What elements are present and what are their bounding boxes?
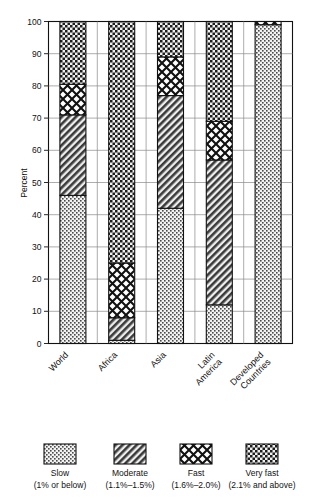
bar-segment-very-fast[interactable] [206,22,232,122]
bar-segment-slow[interactable] [255,25,281,344]
bar-segment-moderate[interactable] [206,160,232,305]
y-tick-label-50: 50 [32,178,42,188]
bar-segment-fast[interactable] [206,121,232,160]
y-tick-label-60: 60 [32,145,42,155]
bar-segment-fast[interactable] [109,263,135,318]
category-label-line1: World [47,350,71,374]
bar-latin-america[interactable] [206,22,232,344]
legend-swatch-fast [180,444,212,464]
category-label-line1: Asia [148,350,167,369]
category-label-latin: LatinAmerica [186,350,223,387]
bar-segment-fast[interactable] [158,57,184,96]
legend-item-moderate[interactable]: Moderate(1.1%–1.5%) [105,444,154,490]
bar-developed-countries[interactable] [255,22,281,344]
legend-sublabel: (1.6%–2.0%) [171,480,220,490]
legend-swatch-slow [44,444,76,464]
bar-world[interactable] [60,22,86,344]
category-label-developed: DevelopedCountries [228,349,273,394]
legend-item-fast[interactable]: Fast(1.6%–2.0%) [171,444,220,490]
y-tick-label-20: 20 [32,274,42,284]
y-tick-label-30: 30 [32,242,42,252]
y-tick-label-40: 40 [32,210,42,220]
category-labels: WorldAfricaAsiaLatinAmericaDevelopedCoun… [47,349,273,394]
legend-item-slow[interactable]: Slow(1% or below) [34,444,87,490]
bar-africa[interactable] [109,22,135,344]
bar-segment-slow[interactable] [60,195,86,343]
chart-canvas: 0102030405060708090100 Percent WorldAfri… [0,0,318,499]
legend-label: Very fast [245,468,279,478]
category-label-africa: Africa [96,350,119,373]
bar-segment-moderate[interactable] [109,318,135,341]
bar-segment-moderate[interactable] [60,115,86,196]
category-label-asia: Asia [148,350,167,369]
bar-segment-fast[interactable] [255,22,281,25]
bar-asia[interactable] [158,22,184,344]
bar-segment-slow[interactable] [158,208,184,343]
legend-swatch-moderate [114,444,146,464]
chart-legend: Slow(1% or below)Moderate(1.1%–1.5%)Fast… [34,444,296,490]
legend-label: Fast [188,468,205,478]
bar-segment-very-fast[interactable] [158,22,184,57]
y-axis-title: Percent [19,168,29,198]
legend-item-very-fast[interactable]: Very fast(2.1% and above) [228,444,295,490]
stacked-bar-chart-figure: 0102030405060708090100 Percent WorldAfri… [0,0,318,499]
category-label-world: World [47,350,71,374]
legend-label: Moderate [112,468,148,478]
legend-sublabel: (1.1%–1.5%) [105,480,154,490]
y-tick-label-70: 70 [32,113,42,123]
y-tick-label-100: 100 [27,17,41,27]
legend-sublabel: (2.1% and above) [228,480,295,490]
y-tick-label-90: 90 [32,49,42,59]
legend-label: Slow [51,468,70,478]
plot-area: 0102030405060708090100 [27,17,292,349]
bar-segment-very-fast[interactable] [60,22,86,85]
category-label-line1: Africa [96,350,119,373]
legend-swatch-veryfast [246,444,278,464]
bar-segment-moderate[interactable] [158,96,184,209]
y-tick-label-80: 80 [32,81,42,91]
legend-sublabel: (1% or below) [34,480,87,490]
bar-segment-very-fast[interactable] [109,22,135,264]
bar-segment-fast[interactable] [60,84,86,115]
bar-segment-slow[interactable] [206,305,232,344]
y-tick-label-10: 10 [32,306,42,316]
y-tick-label-0: 0 [37,339,42,349]
